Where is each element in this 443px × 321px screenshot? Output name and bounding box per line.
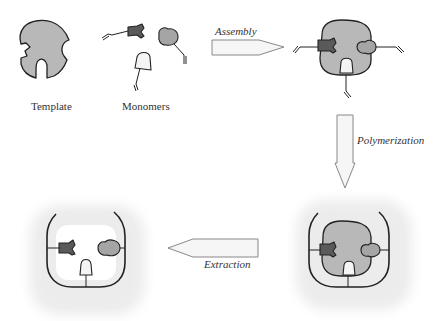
- molecular-imprinting-diagram: Template Monomers Assembly: [0, 0, 443, 321]
- imprinted-cavity: [30, 205, 145, 315]
- monomers-group: [102, 24, 186, 91]
- assembly-label: Assembly: [214, 25, 257, 37]
- gray-monomer: [159, 28, 186, 64]
- monomers-label: Monomers: [122, 100, 170, 112]
- extraction-arrow: [168, 239, 258, 257]
- extraction-label: Extraction: [203, 258, 251, 270]
- assembly-arrow: [212, 40, 284, 55]
- template-monomer-complex: [293, 20, 404, 98]
- polymer-with-template: [296, 200, 412, 310]
- light-monomer: [134, 53, 151, 92]
- template-molecule: [20, 20, 69, 78]
- template-label: Template: [31, 100, 72, 112]
- dark-monomer: [102, 24, 144, 40]
- polymerization-arrow: [335, 115, 355, 188]
- polymerization-label: Polymerization: [356, 134, 425, 146]
